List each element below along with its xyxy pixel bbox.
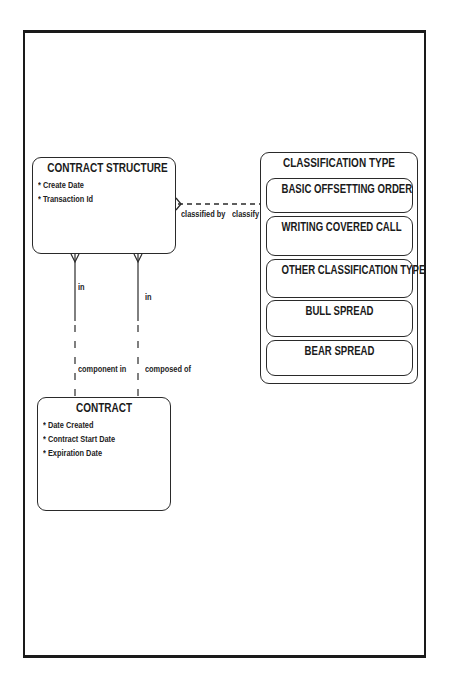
label-classified-by: classified by	[181, 209, 225, 219]
entity-contract[interactable]: CONTRACT * Date Created * Contract Start…	[37, 397, 171, 511]
attribute: * Date Created	[43, 418, 147, 432]
subtype-label: WRITING COVERED CALL	[282, 220, 398, 234]
label-in-left: in	[78, 282, 85, 292]
attribute: * Expiration Date	[43, 446, 147, 460]
subtype-other-classification-type[interactable]: OTHER CLASSIFICATION TYPE	[266, 259, 413, 298]
attribute: * Transaction Id	[38, 192, 150, 206]
label-component-in: component in	[78, 364, 126, 374]
subtype-writing-covered-call[interactable]: WRITING COVERED CALL	[266, 216, 413, 256]
entity-title: CONTRACT	[51, 401, 157, 415]
component-in-relationship-line	[71, 254, 79, 397]
subtype-label: BULL SPREAD	[282, 304, 398, 318]
composed-of-relationship-line	[134, 254, 142, 397]
attribute: * Create Date	[38, 178, 150, 192]
subtype-label: BEAR SPREAD	[282, 344, 398, 358]
entity-title: CLASSIFICATION TYPE	[277, 156, 402, 170]
subtype-bull-spread[interactable]: BULL SPREAD	[266, 300, 413, 337]
entity-title: CONTRACT STRUCTURE	[47, 161, 161, 175]
label-composed-of: composed of	[145, 364, 191, 374]
attribute: * Contract Start Date	[43, 432, 147, 446]
subtype-bear-spread[interactable]: BEAR SPREAD	[266, 340, 413, 376]
label-classify: classify	[232, 209, 259, 219]
entity-contract-structure[interactable]: CONTRACT STRUCTURE * Create Date * Trans…	[32, 157, 176, 254]
subtype-label: OTHER CLASSIFICATION TYPE	[282, 263, 398, 277]
subtype-label: BASIC OFFSETTING ORDER	[282, 182, 398, 196]
subtype-basic-offsetting-order[interactable]: BASIC OFFSETTING ORDER	[266, 178, 413, 213]
label-in-right: in	[145, 292, 152, 302]
